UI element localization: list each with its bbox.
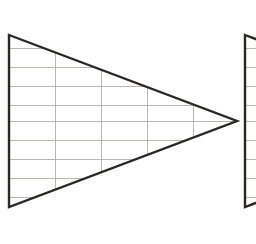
figure-canvas bbox=[0, 0, 256, 244]
triangle-grid-figure bbox=[0, 0, 256, 244]
second-triangle-clipped bbox=[245, 31, 256, 211]
